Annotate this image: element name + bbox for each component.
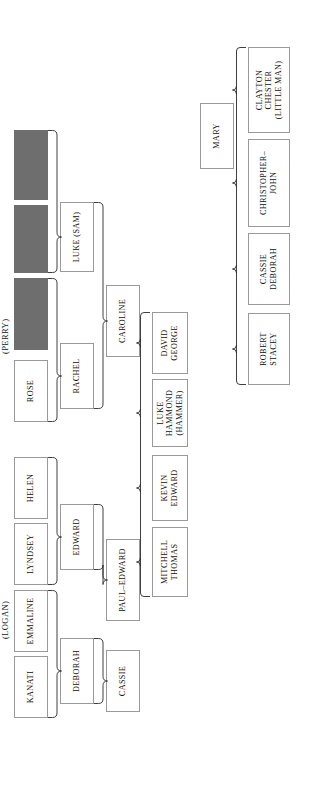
tree-node-g1-lyndsey: LYNDSEY [14, 523, 48, 585]
tree-node-g2-luke-sam: LUKE (SAM) [60, 202, 94, 272]
tree-node-label: CASSIEDEBORAH [259, 235, 278, 303]
tree-node-g4-kevin-edward: KEVINEDWARD [152, 455, 188, 521]
tree-node-label: LUKE (SAM) [72, 204, 82, 270]
generation-label-logan: (LOGAN) [0, 601, 10, 639]
tree-node-label: MITCHELLTHOMAS [160, 529, 179, 595]
tree-node-g6-clayton-chester: CLAYTONCHESTER(LITTLE MAN) [248, 47, 290, 133]
tree-node-label: DEBORAH [72, 640, 82, 702]
brace-edward [48, 457, 57, 585]
tree-node-g6-cassie-deborah: CASSIEDEBORAH [248, 233, 290, 305]
brace-cassie [94, 638, 103, 704]
tree-node-label: LYNDSEY [26, 525, 36, 583]
tree-node-g5-mary: MARY [200, 103, 234, 169]
tree-node-g1-helen: HELEN [14, 457, 48, 519]
tree-node-label: EMMALINE [26, 592, 36, 650]
tree-node-g4-luke-hammond: LUKEHAMMOND(HAMMER) [152, 379, 188, 447]
tree-node-label: HELEN [26, 459, 36, 517]
brace-children [140, 312, 150, 597]
tree-node-g2-edward: EDWARD [60, 504, 94, 570]
family-tree-diagram: ROSEHELENLYNDSEYEMMALINEKANATILUKE (SAM)… [0, 0, 319, 809]
tree-node-label: DAVIDGEORGE [160, 314, 179, 372]
brace-luke-sam [48, 130, 57, 273]
tree-node-g1-redacted-2 [14, 205, 48, 273]
tree-node-label: KEVINEDWARD [160, 457, 179, 519]
tree-node-label: LUKEHAMMOND(HAMMER) [156, 381, 185, 445]
brace-caroline [94, 202, 103, 409]
tree-node-label: KANATI [26, 658, 36, 716]
tree-node-label: EDWARD [72, 506, 82, 568]
tree-node-g1-redacted-3 [14, 278, 48, 350]
tree-node-g3-paul-edward: PAUL–EDWARD [106, 539, 140, 621]
tree-node-label: ROSE [26, 362, 36, 420]
tree-node-label: MARY [212, 105, 222, 167]
tree-node-g1-emmaline: EMMALINE [14, 590, 48, 652]
tree-node-label: CASSIE [118, 652, 128, 710]
tree-node-g4-david-george: DAVIDGEORGE [152, 312, 188, 374]
brace-deborah [48, 590, 57, 718]
tree-node-g3-cassie: CASSIE [106, 650, 140, 712]
tree-node-g2-deborah: DEBORAH [60, 638, 94, 704]
tree-node-label: PAUL–EDWARD [118, 541, 128, 619]
tree-node-g3-caroline: CAROLINE [106, 285, 140, 357]
tree-node-g1-rose: ROSE [14, 360, 48, 422]
brace-grandchildren [236, 47, 246, 385]
tree-node-label: RACHEL [72, 345, 82, 407]
tree-node-g2-rachel: RACHEL [60, 343, 94, 409]
tree-node-g1-kanati: KANATI [14, 656, 48, 718]
tree-node-label: CHRISTOPHER–JOHN [259, 141, 278, 225]
tree-node-g6-robert-stacey: ROBERTSTACEY [248, 313, 290, 385]
generation-label-perry: (PERRY) [0, 319, 10, 354]
tree-node-g6-christopher-john: CHRISTOPHER–JOHN [248, 139, 290, 227]
tree-node-g1-redacted-1 [14, 130, 48, 200]
tree-node-label: CAROLINE [118, 287, 128, 355]
tree-node-label: CLAYTONCHESTER(LITTLE MAN) [255, 49, 284, 131]
brace-rachel [48, 278, 57, 422]
brace-paul-edward [94, 504, 103, 570]
tree-node-g4-mitchell-thomas: MITCHELLTHOMAS [152, 527, 188, 597]
tree-node-label: ROBERTSTACEY [259, 315, 278, 383]
